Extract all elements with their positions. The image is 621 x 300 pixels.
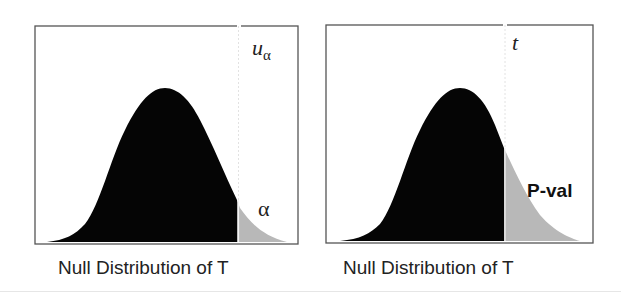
- test-statistic-label: t: [512, 30, 519, 55]
- p-value-label: P-val: [527, 180, 572, 201]
- right-panel: t P-val: [326, 25, 593, 243]
- alpha-label: α: [258, 196, 270, 221]
- divider: [0, 291, 621, 292]
- figure: uα α t P-val: [0, 0, 621, 300]
- left-caption: Null Distribution of T: [58, 257, 229, 279]
- right-caption: Null Distribution of T: [343, 257, 514, 279]
- left-panel: uα α: [35, 26, 298, 244]
